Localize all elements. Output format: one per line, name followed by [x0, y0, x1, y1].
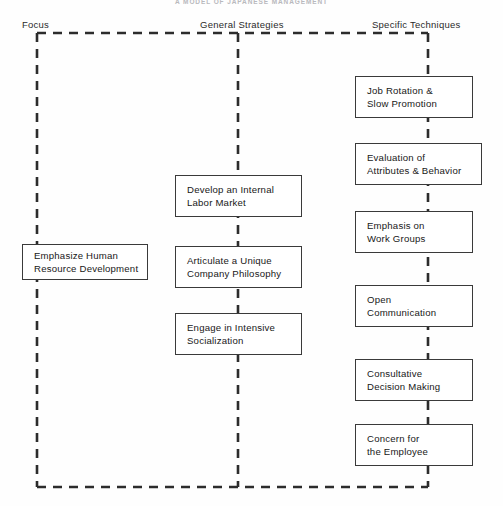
node-engage-in-intensive-socialization[interactable]: Engage in Intensive Socialization: [175, 313, 302, 355]
node-text-line-1: Concern for: [367, 432, 466, 445]
node-text-line-1: Emphasize Human: [34, 249, 141, 262]
node-text-line-1: Job Rotation &: [367, 84, 466, 97]
node-text-line-2: Company Philosophy: [187, 267, 295, 280]
node-text-line-1: Emphasis on: [367, 219, 466, 232]
node-text-line-2: Work Groups: [367, 232, 466, 245]
node-text-line-2: Communication: [367, 306, 466, 319]
node-text-line-2: Labor Market: [187, 196, 295, 209]
node-evaluation-of-attributes-and-behavior[interactable]: Evaluation of Attributes & Behavior: [355, 143, 482, 185]
node-emphasis-on-work-groups[interactable]: Emphasis on Work Groups: [355, 211, 473, 253]
node-text-line-1: Consultative: [367, 367, 466, 380]
node-text-line-1: Evaluation of: [367, 151, 475, 164]
node-text-line-2: the Employee: [367, 445, 466, 458]
node-text-line-2: Resource Development: [34, 262, 141, 275]
node-concern-for-the-employee[interactable]: Concern for the Employee: [355, 424, 473, 466]
node-text-line-2: Attributes & Behavior: [367, 164, 475, 177]
node-develop-an-internal-labor-market[interactable]: Develop an Internal Labor Market: [175, 175, 302, 217]
node-consultative-decision-making[interactable]: Consultative Decision Making: [355, 359, 473, 401]
column-header-specific-techniques: Specific Techniques: [372, 19, 461, 30]
node-text-line-2: Slow Promotion: [367, 97, 466, 110]
node-text-line-1: Develop an Internal: [187, 183, 295, 196]
node-text-line-1: Articulate a Unique: [187, 254, 295, 267]
node-text-line-2: Socialization: [187, 334, 295, 347]
node-articulate-a-unique-company-philosophy[interactable]: Articulate a Unique Company Philosophy: [175, 246, 302, 288]
node-text-line-2: Decision Making: [367, 380, 466, 393]
column-header-general-strategies: General Strategies: [200, 19, 284, 30]
node-emphasize-human-resource-development[interactable]: Emphasize Human Resource Development: [22, 244, 148, 280]
node-text-line-1: Open: [367, 293, 466, 306]
node-open-communication[interactable]: Open Communication: [355, 285, 473, 327]
japanese-management-diagram: A MODEL OF JAPANESE MANAGEMENT Focus Gen…: [0, 0, 503, 506]
node-job-rotation-and-slow-promotion[interactable]: Job Rotation & Slow Promotion: [355, 76, 473, 118]
column-header-focus: Focus: [22, 19, 49, 30]
node-text-line-1: Engage in Intensive: [187, 321, 295, 334]
diagram-title: A MODEL OF JAPANESE MANAGEMENT: [0, 0, 503, 5]
